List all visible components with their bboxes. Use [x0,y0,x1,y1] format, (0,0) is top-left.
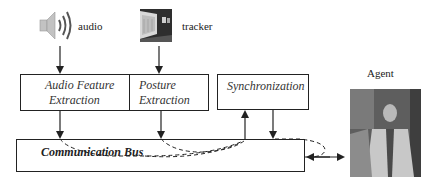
dashed-flow-sync-to-agent [275,139,325,157]
connector-layer [0,0,438,187]
dashed-flow-audio [60,139,243,156]
dashed-flow-bus-line [145,143,240,157]
